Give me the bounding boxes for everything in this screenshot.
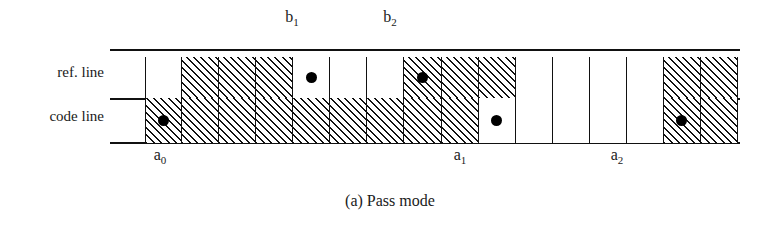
grid-cell [516, 57, 553, 98]
annotation-b2-sub: 2 [391, 16, 397, 28]
grid-cell [293, 57, 330, 98]
grid-cell [182, 57, 219, 98]
grid-cell [516, 98, 553, 143]
grid-cell [664, 57, 701, 98]
grid-cell [701, 57, 738, 98]
pass-mode-figure: ref. line code line b1 b2 a0 a1 a2 (a) P… [0, 0, 780, 250]
annotation-a1: a1 [440, 146, 480, 166]
changing-element-dot [158, 115, 169, 126]
grid-cell [219, 57, 256, 98]
annotation-a2-sub: 2 [618, 154, 624, 166]
grid-cell [182, 98, 219, 143]
grid-cell [664, 98, 701, 143]
grid-cell [145, 57, 182, 98]
grid-cell [256, 57, 293, 98]
code-line-row-label: code line [8, 108, 104, 125]
grid-cell [293, 98, 330, 143]
grid-cell [479, 57, 516, 98]
grid-cell [590, 57, 627, 98]
changing-element-dot [306, 72, 317, 83]
annotation-b1: b1 [272, 8, 312, 28]
grid-cell [442, 57, 479, 98]
grid-cell [479, 98, 516, 143]
ref-line-row [145, 57, 738, 98]
annotation-a0-sub: 0 [161, 154, 167, 166]
changing-element-dot [491, 115, 502, 126]
ref-line-row-label: ref. line [8, 64, 104, 81]
changing-element-dot [676, 115, 687, 126]
grid-cell [367, 57, 404, 98]
grid-cell [219, 98, 256, 143]
annotation-b2: b2 [370, 8, 410, 28]
grid-cell [627, 57, 664, 98]
grid-cell [256, 98, 293, 143]
grid-cell [590, 98, 627, 143]
grid-cell [553, 57, 590, 98]
grid-cell [553, 98, 590, 143]
grid-cell [701, 98, 738, 143]
annotation-b1-sub: 1 [293, 16, 299, 28]
annotation-a2-base: a [611, 146, 618, 163]
annotation-a2: a2 [597, 146, 637, 166]
annotation-a1-sub: 1 [461, 154, 467, 166]
grid-cell [330, 98, 367, 143]
grid-cell [404, 57, 441, 98]
figure-caption: (a) Pass mode [0, 192, 780, 210]
grid-cell [330, 57, 367, 98]
grid-cell [404, 98, 441, 143]
annotation-a0: a0 [140, 146, 180, 166]
grid-cell [627, 98, 664, 143]
grid-cell [145, 98, 182, 143]
grid-cell [367, 98, 404, 143]
changing-element-dot [417, 72, 428, 83]
code-line-row [145, 98, 738, 143]
grid-top-rule [110, 49, 740, 51]
bitmap-grid [145, 57, 738, 143]
grid-cell [442, 98, 479, 143]
annotation-a0-base: a [154, 146, 161, 163]
annotation-a1-base: a [454, 146, 461, 163]
